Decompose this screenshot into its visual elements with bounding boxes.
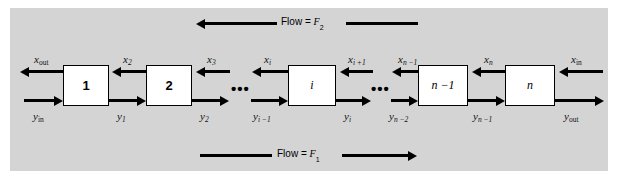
label-x-2-sub: 2 xyxy=(128,58,132,67)
x-i-plus-1-arrowhead xyxy=(340,67,349,77)
y-in-line xyxy=(24,99,54,102)
label-y-1: y1 xyxy=(117,110,126,122)
y-out-line xyxy=(555,99,595,102)
x-out-line xyxy=(29,70,63,73)
label-x-n-sub: n xyxy=(489,58,493,67)
y-2-line xyxy=(192,99,220,102)
label-y-1-sub: 1 xyxy=(122,115,126,124)
label-y-n-minus-2-sub: n −2 xyxy=(394,115,408,124)
y-n-minus-1-arrowhead xyxy=(496,96,505,106)
label-x-i-plus-1: xi +1 xyxy=(348,53,366,65)
bottom-flow-line-right xyxy=(342,154,408,157)
y-i-arrowhead xyxy=(362,96,371,106)
x-3-line xyxy=(205,70,230,73)
label-x-i-plus-1-sub: i +1 xyxy=(353,58,366,67)
label-y-n-minus-2: yn −2 xyxy=(389,110,408,122)
label-y-n-minus-1-sub: n −1 xyxy=(478,115,492,124)
label-x-out: xout xyxy=(34,53,48,65)
cascade-diagram: Flow = F2 Flow = F1 1 2 i n −1 n ••• ••• xyxy=(0,0,622,179)
x-i-line xyxy=(261,70,288,73)
stage-box-n-label: n xyxy=(527,78,533,93)
x-out-arrowhead xyxy=(20,67,29,77)
bottom-flow-label: Flow = F1 xyxy=(277,148,320,161)
y-n-minus-2-line xyxy=(391,99,409,102)
x-in-line xyxy=(568,70,603,73)
y-out-arrowhead xyxy=(595,96,604,106)
label-y-i-minus-1: yi −1 xyxy=(253,110,271,122)
top-flow-line-right xyxy=(346,22,418,25)
stage-box-1-label: 1 xyxy=(82,78,89,93)
bottom-flow-prefix: Flow = xyxy=(277,148,307,159)
x-2-arrowhead xyxy=(112,67,121,77)
stage-box-n-minus-1-label: n −1 xyxy=(431,78,454,93)
y-n-minus-2-arrowhead xyxy=(409,96,418,106)
ellipsis-right: ••• xyxy=(371,81,390,96)
stage-box-n[interactable]: n xyxy=(505,65,555,106)
label-y-i: yi xyxy=(344,110,351,122)
stage-box-n-minus-1[interactable]: n −1 xyxy=(418,65,468,106)
label-x-n-minus-1-sub: n −1 xyxy=(403,58,417,67)
label-x-out-sub: out xyxy=(39,58,49,67)
y-i-minus-1-arrowhead xyxy=(279,96,288,106)
label-y-i-sub: i xyxy=(349,115,351,124)
y-in-arrowhead xyxy=(54,96,63,106)
x-n-arrowhead xyxy=(472,67,481,77)
top-flow-prefix: Flow = xyxy=(281,16,311,27)
y-1-line xyxy=(109,99,137,102)
stage-box-2-label: 2 xyxy=(165,78,172,93)
x-i-plus-1-line xyxy=(349,70,373,73)
stage-box-1[interactable]: 1 xyxy=(63,65,109,106)
label-y-i-minus-1-sub: i −1 xyxy=(258,115,271,124)
y-2-arrowhead xyxy=(220,96,229,106)
label-x-3-sub: 3 xyxy=(212,58,216,67)
label-x-in-sub: in xyxy=(576,58,582,67)
x-i-arrowhead xyxy=(252,67,261,77)
top-flow-arrowhead xyxy=(196,19,205,29)
y-1-arrowhead xyxy=(137,96,146,106)
stage-box-i-label: i xyxy=(310,78,313,93)
label-x-3: x3 xyxy=(207,53,216,65)
stage-box-i[interactable]: i xyxy=(288,65,336,106)
y-n-minus-1-line xyxy=(468,99,496,102)
label-x-n-minus-1: xn −1 xyxy=(398,53,417,65)
label-y-2: y2 xyxy=(200,110,209,122)
bottom-flow-line-left xyxy=(200,154,272,157)
x-n-minus-1-arrowhead xyxy=(392,67,401,77)
label-x-i: xi xyxy=(264,53,271,65)
x-n-minus-1-line xyxy=(401,70,418,73)
x-2-line xyxy=(121,70,146,73)
label-y-2-sub: 2 xyxy=(205,115,209,124)
x-in-arrowhead xyxy=(559,67,568,77)
label-y-out: yout xyxy=(564,110,578,122)
label-y-in-sub: in xyxy=(38,115,44,124)
y-i-minus-1-line xyxy=(251,99,279,102)
top-flow-subscript: 2 xyxy=(320,24,324,31)
top-flow-symbol: F xyxy=(314,16,320,27)
bottom-flow-subscript: 1 xyxy=(316,156,320,163)
label-x-n: xn xyxy=(484,53,493,65)
x-n-line xyxy=(481,70,505,73)
label-y-n-minus-1: yn −1 xyxy=(473,110,492,122)
x-3-arrowhead xyxy=(196,67,205,77)
bottom-flow-arrowhead xyxy=(408,151,417,161)
top-flow-label: Flow = F2 xyxy=(281,16,324,29)
label-x-in: xin xyxy=(571,53,582,65)
y-i-line xyxy=(336,99,362,102)
stage-box-2[interactable]: 2 xyxy=(146,65,192,106)
bottom-flow-symbol: F xyxy=(310,148,316,159)
label-x-2: x2 xyxy=(123,53,132,65)
ellipsis-left: ••• xyxy=(231,81,250,96)
label-y-out-sub: out xyxy=(569,115,579,124)
label-y-in: yin xyxy=(33,110,44,122)
label-x-i-sub: i xyxy=(269,58,271,67)
top-flow-line-left xyxy=(205,22,277,25)
